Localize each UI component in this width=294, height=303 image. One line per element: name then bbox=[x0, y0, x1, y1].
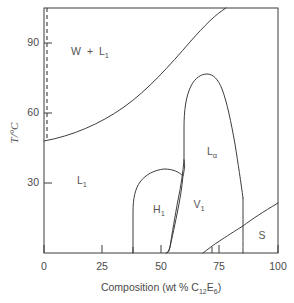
phase-diagram-figure: T/°C 90 60 30 0 25 50 75 100 Composition… bbox=[0, 0, 294, 303]
region-label-lalpha-sub: α bbox=[213, 151, 218, 160]
x-axis-title: Composition (wt % C12E6) bbox=[101, 281, 221, 295]
region-label-v1-sub: 1 bbox=[200, 204, 204, 213]
x-tick-label-0: 0 bbox=[41, 260, 47, 272]
x-tick-label-100: 100 bbox=[269, 260, 287, 272]
region-label-h1-sub: 1 bbox=[161, 209, 165, 218]
x-axis-title-mid: E bbox=[207, 281, 214, 293]
y-tick-label-90: 90 bbox=[27, 36, 39, 48]
region-label-plus: + bbox=[87, 45, 93, 57]
x-axis-title-suffix: ) bbox=[218, 281, 222, 293]
region-label-v1-main: V bbox=[193, 198, 200, 210]
region-label-w: W bbox=[71, 45, 81, 57]
y-axis-title: T/°C bbox=[8, 122, 20, 144]
x-tick-label-50: 50 bbox=[155, 260, 167, 272]
x-axis-title-prefix: Composition (wt % C bbox=[101, 281, 199, 293]
phase-diagram-svg: T/°C 90 60 30 0 25 50 75 100 Composition… bbox=[0, 0, 294, 303]
region-label-l-sub: 1 bbox=[105, 51, 109, 60]
x-axis-title-sub-12: 12 bbox=[199, 288, 207, 295]
y-tick-label-30: 30 bbox=[27, 176, 39, 188]
x-tick-label-25: 25 bbox=[96, 260, 108, 272]
x-tick-label-75: 75 bbox=[213, 260, 225, 272]
region-label-l1-sub: 1 bbox=[83, 180, 87, 189]
y-tick-label-60: 60 bbox=[27, 106, 39, 118]
region-label-h1-main: H bbox=[153, 203, 161, 215]
region-label-s: S bbox=[258, 229, 265, 241]
